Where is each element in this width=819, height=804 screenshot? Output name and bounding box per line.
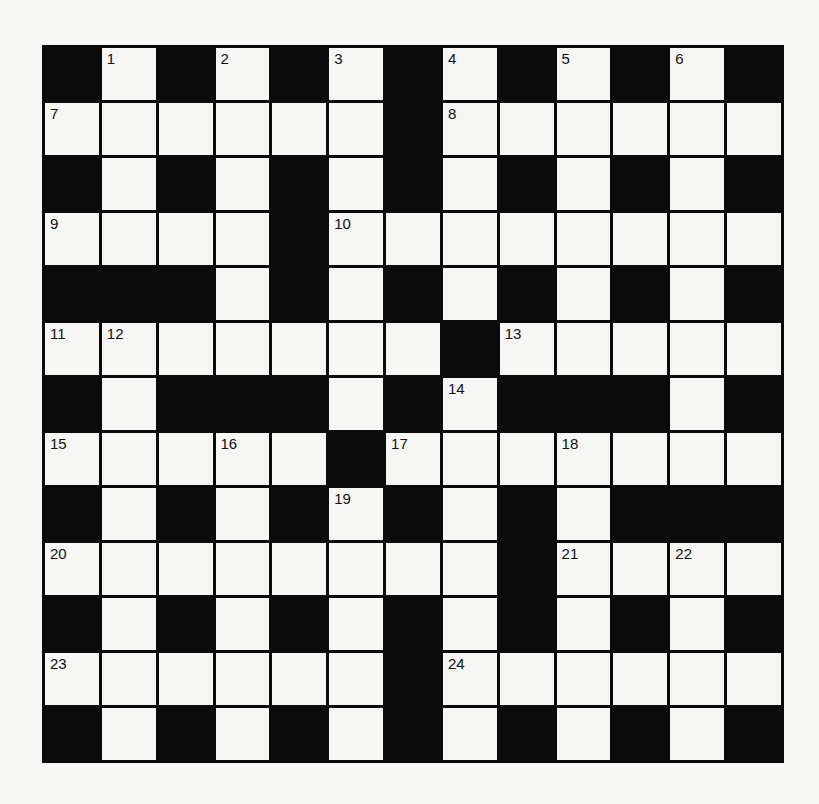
answer-cell[interactable] [670, 708, 724, 760]
answer-cell[interactable] [329, 378, 383, 430]
answer-cell[interactable]: 24 [443, 653, 497, 705]
answer-cell[interactable] [670, 598, 724, 650]
answer-cell[interactable] [727, 433, 781, 485]
answer-cell[interactable] [443, 213, 497, 265]
answer-cell[interactable] [613, 323, 667, 375]
answer-cell[interactable]: 13 [500, 323, 554, 375]
answer-cell[interactable] [102, 378, 156, 430]
answer-cell[interactable] [670, 433, 724, 485]
answer-cell[interactable] [329, 653, 383, 705]
answer-cell[interactable] [386, 323, 440, 375]
answer-cell[interactable] [216, 103, 270, 155]
answer-cell[interactable] [500, 653, 554, 705]
answer-cell[interactable] [159, 323, 213, 375]
answer-cell[interactable] [216, 598, 270, 650]
answer-cell[interactable]: 14 [443, 378, 497, 430]
answer-cell[interactable]: 22 [670, 543, 724, 595]
answer-cell[interactable] [727, 103, 781, 155]
answer-cell[interactable] [102, 488, 156, 540]
answer-cell[interactable] [272, 433, 326, 485]
answer-cell[interactable]: 2 [216, 48, 270, 100]
answer-cell[interactable]: 7 [45, 103, 99, 155]
answer-cell[interactable] [557, 213, 611, 265]
answer-cell[interactable] [557, 653, 611, 705]
answer-cell[interactable]: 23 [45, 653, 99, 705]
answer-cell[interactable] [670, 653, 724, 705]
answer-cell[interactable] [670, 378, 724, 430]
answer-cell[interactable] [102, 158, 156, 210]
answer-cell[interactable] [272, 323, 326, 375]
answer-cell[interactable] [216, 268, 270, 320]
answer-cell[interactable] [727, 213, 781, 265]
answer-cell[interactable]: 18 [557, 433, 611, 485]
answer-cell[interactable] [727, 323, 781, 375]
answer-cell[interactable] [329, 103, 383, 155]
answer-cell[interactable] [670, 323, 724, 375]
answer-cell[interactable] [329, 543, 383, 595]
answer-cell[interactable] [443, 268, 497, 320]
answer-cell[interactable] [329, 598, 383, 650]
answer-cell[interactable] [727, 543, 781, 595]
answer-cell[interactable] [386, 213, 440, 265]
answer-cell[interactable] [670, 103, 724, 155]
answer-cell[interactable] [557, 488, 611, 540]
answer-cell[interactable]: 1 [102, 48, 156, 100]
answer-cell[interactable] [216, 213, 270, 265]
answer-cell[interactable] [329, 158, 383, 210]
answer-cell[interactable] [670, 268, 724, 320]
answer-cell[interactable] [272, 543, 326, 595]
answer-cell[interactable] [329, 323, 383, 375]
answer-cell[interactable] [557, 323, 611, 375]
answer-cell[interactable] [159, 103, 213, 155]
answer-cell[interactable]: 17 [386, 433, 440, 485]
answer-cell[interactable] [613, 433, 667, 485]
answer-cell[interactable] [102, 708, 156, 760]
answer-cell[interactable] [272, 103, 326, 155]
answer-cell[interactable] [329, 708, 383, 760]
answer-cell[interactable] [216, 158, 270, 210]
answer-cell[interactable] [613, 543, 667, 595]
answer-cell[interactable]: 6 [670, 48, 724, 100]
answer-cell[interactable]: 4 [443, 48, 497, 100]
answer-cell[interactable]: 8 [443, 103, 497, 155]
answer-cell[interactable]: 11 [45, 323, 99, 375]
answer-cell[interactable] [670, 213, 724, 265]
answer-cell[interactable] [216, 653, 270, 705]
answer-cell[interactable] [102, 213, 156, 265]
answer-cell[interactable] [159, 433, 213, 485]
answer-cell[interactable]: 15 [45, 433, 99, 485]
answer-cell[interactable]: 3 [329, 48, 383, 100]
answer-cell[interactable]: 21 [557, 543, 611, 595]
answer-cell[interactable] [443, 158, 497, 210]
answer-cell[interactable] [670, 158, 724, 210]
answer-cell[interactable] [102, 598, 156, 650]
answer-cell[interactable] [216, 488, 270, 540]
answer-cell[interactable] [557, 103, 611, 155]
answer-cell[interactable] [500, 213, 554, 265]
answer-cell[interactable] [613, 103, 667, 155]
answer-cell[interactable]: 19 [329, 488, 383, 540]
answer-cell[interactable] [500, 433, 554, 485]
answer-cell[interactable] [727, 653, 781, 705]
answer-cell[interactable]: 20 [45, 543, 99, 595]
answer-cell[interactable] [443, 708, 497, 760]
answer-cell[interactable]: 5 [557, 48, 611, 100]
answer-cell[interactable] [500, 103, 554, 155]
answer-cell[interactable] [557, 158, 611, 210]
answer-cell[interactable] [329, 268, 383, 320]
answer-cell[interactable] [216, 708, 270, 760]
answer-cell[interactable] [443, 598, 497, 650]
answer-cell[interactable] [557, 708, 611, 760]
answer-cell[interactable] [216, 323, 270, 375]
answer-cell[interactable] [613, 213, 667, 265]
answer-cell[interactable] [216, 543, 270, 595]
answer-cell[interactable]: 16 [216, 433, 270, 485]
answer-cell[interactable] [102, 543, 156, 595]
answer-cell[interactable] [443, 488, 497, 540]
answer-cell[interactable]: 10 [329, 213, 383, 265]
answer-cell[interactable] [443, 543, 497, 595]
answer-cell[interactable] [272, 653, 326, 705]
answer-cell[interactable] [159, 543, 213, 595]
answer-cell[interactable] [443, 433, 497, 485]
answer-cell[interactable] [102, 103, 156, 155]
